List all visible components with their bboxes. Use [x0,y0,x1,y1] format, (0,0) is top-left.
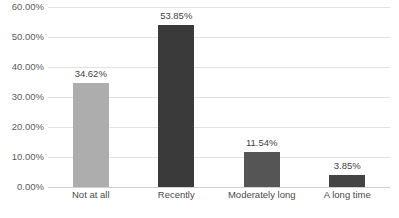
bar-value-label: 53.85% [136,11,216,21]
bar-value-label: 11.54% [222,138,302,148]
x-axis-baseline [48,187,390,188]
gridline [48,7,390,8]
x-axis-tick-label: A long time [297,190,397,200]
y-axis-tick-label: 0.00% [0,182,44,192]
plot-area: 34.62%53.85%11.54%3.85% [48,7,390,187]
gridline [48,37,390,38]
y-axis-tick-label: 10.00% [0,152,44,162]
bar-chart: 0.00%10.00%20.00%30.00%40.00%50.00%60.00… [0,0,399,218]
bar [329,175,365,187]
y-axis-tick-label: 40.00% [0,62,44,72]
x-axis: Not at allRecentlyModerately longA long … [48,190,390,204]
bar-value-label: 34.62% [51,69,131,79]
y-axis-tick-label: 20.00% [0,122,44,132]
bar [73,83,109,187]
bar [158,25,194,187]
bar-value-label: 3.85% [307,161,387,171]
y-axis: 0.00%10.00%20.00%30.00%40.00%50.00%60.00… [0,7,44,187]
bar [244,152,280,187]
caption-strip [0,209,399,218]
y-axis-tick-label: 50.00% [0,32,44,42]
y-axis-tick-label: 60.00% [0,2,44,12]
y-axis-tick-label: 30.00% [0,92,44,102]
